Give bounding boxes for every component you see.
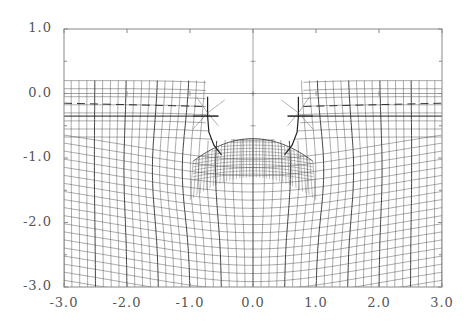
mesh-plot — [0, 0, 470, 326]
x-tick-label: 2.0 — [349, 295, 409, 310]
x-tick-label: -1.0 — [160, 295, 220, 310]
y-tick-label: 0.0 — [0, 85, 52, 100]
y-tick-label: -2.0 — [0, 214, 52, 229]
x-tick-label: -2.0 — [97, 295, 157, 310]
y-tick-label: 1.0 — [0, 20, 52, 35]
x-tick-label: 1.0 — [286, 295, 346, 310]
x-tick-label: 0.0 — [223, 295, 283, 310]
y-tick-label: -1.0 — [0, 149, 52, 164]
y-tick-label: -3.0 — [0, 278, 52, 293]
mesh-lines — [63, 29, 442, 306]
x-tick-label: -3.0 — [34, 295, 94, 310]
x-tick-label: 3.0 — [412, 295, 470, 310]
